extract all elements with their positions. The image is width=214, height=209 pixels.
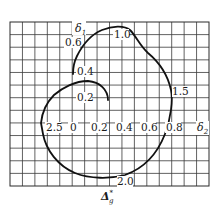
horizontal-tick-0-6: 0.6 (141, 121, 158, 133)
vertical-tick-0-6: 0.6 (65, 36, 82, 48)
curve-annotation-1-0: 1.0 (114, 28, 131, 40)
horizontal-tick-0-2: 0.2 (91, 121, 108, 133)
curve-annotation-1-5: 1.5 (172, 85, 189, 97)
horizontal-tick-2-5: 2.5 (46, 121, 63, 133)
horizontal-tick-0: 0 (70, 121, 77, 133)
curve-parameter-label: Δ*g (100, 189, 114, 205)
grid-lines (10, 22, 209, 186)
vertical-tick-0-2: 0.2 (77, 91, 94, 103)
horizontal-tick-0-4: 0.4 (116, 121, 133, 133)
spiral-locus-diagram: δ1 0.6 0.4 0.2 1.0 1.5 2.0 2.5 0 0.2 0.4… (0, 0, 214, 209)
curve-annotation-2-0: 2.0 (117, 175, 134, 187)
horizontal-tick-0-8: 0.8 (166, 121, 183, 133)
vertical-tick-0-4: 0.4 (77, 65, 94, 77)
spiral-curve (41, 27, 172, 178)
